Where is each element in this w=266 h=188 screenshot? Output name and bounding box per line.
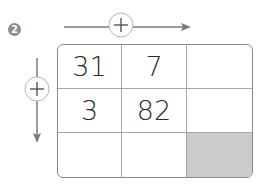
grid-cell-r3-c3-shaded <box>187 133 252 177</box>
grid-cell-r3-c2-answer[interactable] <box>122 133 187 177</box>
grid-cell-r1-c1: 31 <box>58 45 122 89</box>
horizontal-plus-arrow-icon <box>64 13 191 37</box>
grid-cell-r2-c2: 82 <box>122 89 187 133</box>
grid-cell-r3-c1-answer[interactable] <box>58 133 122 177</box>
grid-cell-r2-c3-answer[interactable] <box>187 89 252 133</box>
grid-cell-r2-c1: 3 <box>58 89 122 133</box>
vertical-plus-arrow-icon <box>25 58 49 143</box>
addition-grid: 31 7 3 82 <box>57 44 253 178</box>
grid-cell-r1-c2: 7 <box>122 45 187 89</box>
grid-cell-r1-c3-answer[interactable] <box>187 45 252 89</box>
